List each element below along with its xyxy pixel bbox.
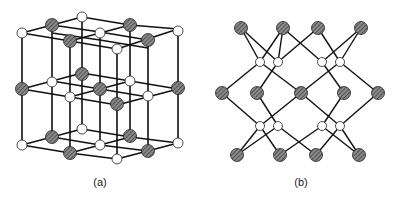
panel-b-label: (b) [281,176,321,188]
figure: (a) (b) [0,0,400,197]
crystal-structures-diagram [0,0,400,197]
panel-a-label: (a) [80,176,120,188]
